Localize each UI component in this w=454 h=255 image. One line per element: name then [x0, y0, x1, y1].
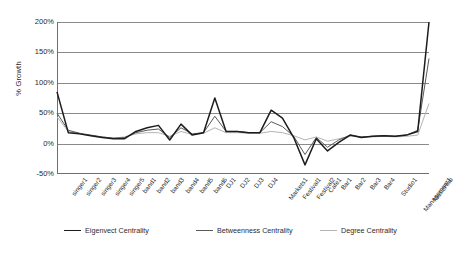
- series-line-1: [57, 58, 429, 154]
- y-tick-label: 0%: [14, 139, 54, 148]
- legend-item-eigenvector: Eigenvect Centrality: [64, 226, 149, 235]
- legend-swatch-betweenness: [196, 230, 213, 231]
- y-tick-label: 100%: [14, 78, 54, 87]
- legend-label-eigenvector: Eigenvect Centrality: [85, 226, 149, 235]
- x-tick-label: band4: [183, 176, 199, 194]
- chart-legend: Eigenvect Centrality Betweenness Central…: [0, 226, 438, 244]
- x-tick-label: Bar3: [368, 176, 382, 191]
- series-line-0: [57, 22, 429, 165]
- legend-swatch-eigenvector: [64, 230, 81, 231]
- x-tick-label: band5: [198, 176, 214, 194]
- legend-item-betweenness: Betweenness Centrality: [196, 226, 293, 235]
- y-tick-label: -50%: [14, 169, 54, 178]
- y-tick-label: 200%: [14, 17, 54, 26]
- x-tick-label: Bar1: [339, 176, 353, 191]
- plot-area: [57, 22, 429, 174]
- x-tick-label: DJ2: [238, 176, 251, 189]
- series-line-2: [57, 103, 429, 141]
- x-tick-label: DJ4: [267, 176, 280, 189]
- legend-label-degree: Degree Centrality: [341, 226, 397, 235]
- x-tick-label: band3: [169, 176, 185, 194]
- x-tick-label: Bar4: [382, 176, 396, 191]
- x-tick-label: DJ3: [253, 176, 266, 189]
- y-tick-label: 150%: [14, 47, 54, 56]
- x-tick-label: Studio1: [400, 176, 419, 197]
- legend-swatch-degree: [320, 230, 337, 231]
- x-tick-label: band2: [155, 176, 171, 194]
- legend-label-betweenness: Betweenness Centrality: [217, 226, 293, 235]
- series-lines: [57, 22, 429, 174]
- x-tick-label: Bar2: [353, 176, 367, 191]
- x-axis-tick-labels: singer1singer2singer3singer4singer5band1…: [57, 176, 429, 220]
- legend-item-degree: Degree Centrality: [320, 226, 397, 235]
- y-tick-label: 50%: [14, 108, 54, 117]
